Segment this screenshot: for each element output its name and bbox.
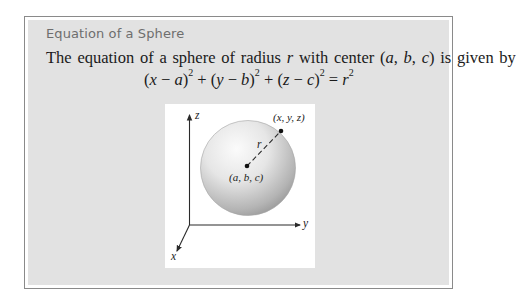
surface-point: [279, 129, 284, 134]
surface-point-label: (x, y, z): [273, 111, 305, 123]
sphere-equation: (x − a)2 + (y − b)2 + (z − c)2 = r2: [144, 69, 354, 90]
sphere-figure-panel: z y x (x, y, z) (a, b, c) r: [165, 104, 315, 268]
definition-text: The equation of a sphere of radius r wit…: [46, 48, 516, 68]
box-title: Equation of a Sphere: [46, 26, 184, 41]
center-point-label: (a, b, c): [229, 171, 263, 183]
y-axis-label: y: [303, 217, 308, 229]
center-point: [245, 164, 250, 169]
radius-label: r: [257, 138, 261, 150]
sphere-diagram: [165, 104, 315, 268]
x-axis-label: x: [171, 250, 176, 262]
x-axis: [177, 225, 190, 251]
z-axis-label: z: [195, 109, 199, 121]
